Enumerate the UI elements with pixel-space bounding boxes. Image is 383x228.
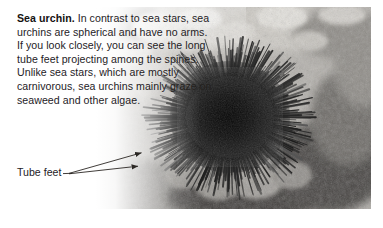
caption-paragraph: Sea urchin. In contrast to sea stars, se…	[17, 12, 213, 107]
sea-urchin-figure: Sea urchin. In contrast to sea stars, se…	[0, 0, 383, 228]
tube-feet-label: Tube feet	[17, 166, 61, 178]
caption-body: In contrast to sea stars, sea urchins ar…	[17, 12, 212, 106]
caption-text-block: Sea urchin. In contrast to sea stars, se…	[17, 12, 213, 107]
caption-lead-in: Sea urchin.	[17, 12, 75, 24]
